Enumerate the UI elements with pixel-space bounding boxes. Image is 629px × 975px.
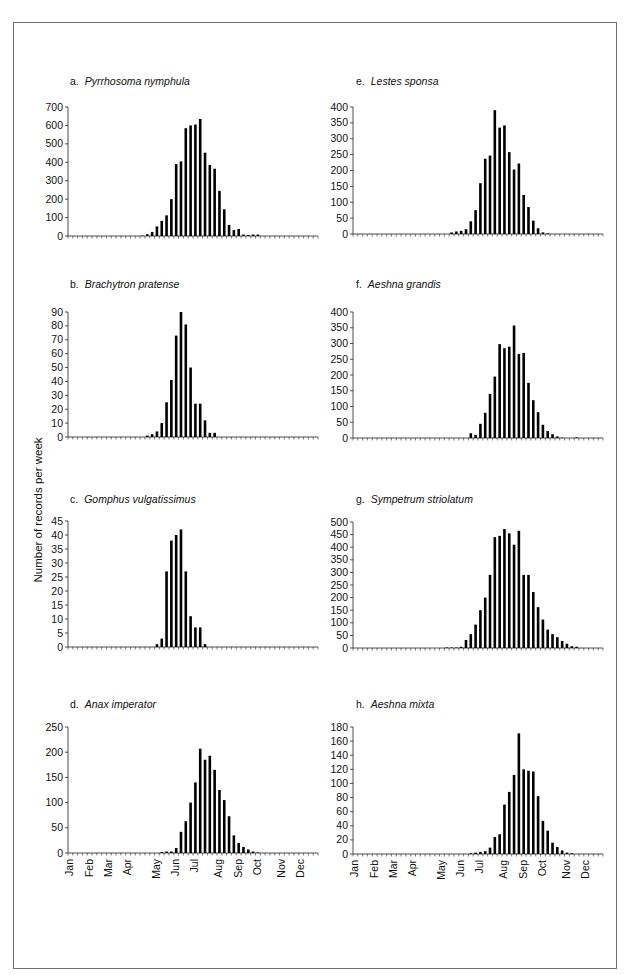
bar [546,831,549,854]
bar [551,434,554,438]
month-label: Oct [536,860,548,876]
bar [460,647,463,648]
y-tick-label: 100 [45,796,63,808]
bar [503,125,506,234]
bar [575,647,578,648]
bar [455,647,458,648]
bar [532,771,535,854]
bar [522,769,525,854]
bar [489,848,492,854]
bar [503,805,506,854]
bar-chart: 050100150200250300350400450500 [320,455,610,655]
bar [494,377,497,438]
y-tick-label: 10 [51,417,63,429]
bar [199,119,202,236]
bar [189,803,192,853]
bar [170,199,173,236]
bar-chart: 050100150200250300350400 [320,50,610,250]
bar [474,210,477,234]
bar [165,851,168,853]
y-tick-label: 100 [330,400,348,412]
bar [551,634,554,648]
month-label: Apr [121,859,133,876]
bar [570,646,573,648]
bar [542,232,545,234]
bar [489,394,492,438]
y-tick-label: 0 [57,641,63,653]
bar [469,634,472,648]
bar [474,625,477,648]
bar [469,433,472,438]
y-tick-label: 200 [330,591,348,603]
bar [252,235,255,236]
bar [556,847,559,854]
bar [209,756,212,853]
bar [537,796,540,854]
chart-panel-h: h.Aeshna mixta 020406080100120140160180J… [320,695,610,905]
month-label: May [435,859,447,880]
y-tick-label: 100 [330,777,348,789]
bar [218,191,221,236]
bar [233,835,236,853]
bar [465,640,468,648]
y-tick-label: 140 [330,749,348,761]
bar [184,325,187,438]
y-tick-label: 0 [342,432,348,444]
bar [513,170,516,234]
month-label: Jul [188,859,200,872]
y-tick-label: 40 [336,819,348,831]
y-tick-label: 250 [330,353,348,365]
bar [518,531,521,648]
bar [194,125,197,236]
month-label: Mar [387,860,399,879]
month-label: Mar [102,859,114,878]
y-tick-label: 35 [51,543,63,555]
bar [165,571,168,647]
y-tick-label: 600 [45,119,63,131]
month-label: Feb [368,860,380,878]
bar-chart: 051015202530354045 [30,455,320,655]
y-tick-label: 0 [57,230,63,242]
y-tick-label: 400 [45,156,63,168]
bar [513,545,516,648]
y-tick-label: 50 [51,361,63,373]
bar [189,125,192,236]
bar [556,637,559,648]
bar [546,630,549,648]
bar [542,620,545,648]
bar [146,436,149,437]
month-label: Aug [212,859,224,878]
y-tick-label: 10 [51,613,63,625]
bar [513,326,516,438]
y-tick-label: 250 [330,579,348,591]
y-tick-label: 100 [330,616,348,628]
bar [546,431,549,438]
bar [160,852,163,853]
bar [484,413,487,438]
y-tick-label: 350 [330,321,348,333]
bar [223,800,226,853]
y-tick-label: 100 [330,196,348,208]
y-tick-label: 80 [336,791,348,803]
bar [209,433,212,437]
bar [489,156,492,234]
bar [508,792,511,854]
y-tick-label: 150 [45,771,63,783]
month-label: Nov [560,859,572,878]
bar [204,420,207,437]
chart-panel-c: c.Gomphus vulgatissimus 0510152025303540… [30,455,320,665]
month-label: Jan [63,859,75,876]
bar [537,412,540,438]
bar [213,433,216,437]
bar [518,164,521,234]
y-tick-label: 150 [330,384,348,396]
bar [479,183,482,234]
y-tick-label: 100 [45,211,63,223]
bar [522,575,525,648]
chart-panel-b: b.Brachytron pratense 010203040506070809… [30,255,320,465]
y-tick-label: 200 [45,746,63,758]
bar [242,235,245,236]
y-tick-label: 200 [330,369,348,381]
bar-chart: 020406080100120140160180JanFebMarAprMayJ… [320,695,610,905]
bar [498,128,501,234]
